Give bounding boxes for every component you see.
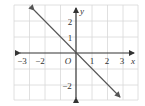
coordinate-graph: −3 −2 1 2 3 O x y 2 1 −2 (0, 0, 145, 106)
y-tick-label: 2 (68, 17, 73, 27)
y-tick-label: 1 (68, 33, 73, 43)
x-tick-label: 2 (105, 56, 110, 66)
y-tick-label: −2 (62, 81, 72, 91)
x-axis-label: x (130, 56, 135, 66)
x-tick-label: 1 (90, 56, 95, 66)
x-tick-label: −2 (35, 56, 45, 66)
x-tick-label: 3 (120, 56, 125, 66)
x-tick-label: −3 (17, 56, 27, 66)
y-axis-label: y (79, 6, 84, 16)
origin-label: O (65, 56, 72, 66)
